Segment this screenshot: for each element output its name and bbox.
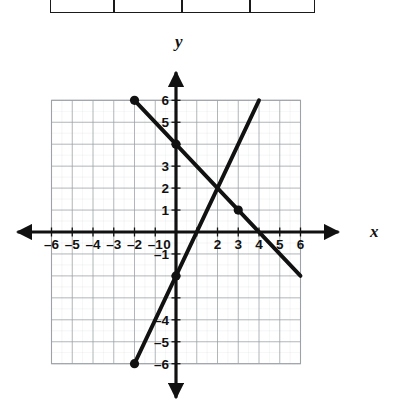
- x-tick-label: –4: [85, 237, 101, 252]
- y-tick-label: –5: [154, 335, 170, 350]
- x-tick-label: 4: [255, 237, 263, 252]
- y-tick-label: 3: [161, 159, 169, 174]
- x-tick-label: –5: [65, 237, 81, 252]
- x-tick-label: 6: [297, 237, 305, 252]
- plotted-point: [171, 140, 180, 149]
- x-tick-label: 3: [234, 237, 242, 252]
- x-tick-label: 2: [214, 237, 222, 252]
- x-tick-label: –3: [106, 237, 122, 252]
- y-tick-label: 6: [161, 93, 169, 108]
- y-tick-label: 2: [161, 181, 169, 196]
- coordinate-graph: –6–5–4–3–2–102345665321–1–4–5–6: [0, 0, 398, 413]
- figure-root: y x –6–5–4–3–2–102345665321–1–4–5–6: [0, 0, 398, 413]
- y-tick-label: 1: [161, 203, 169, 218]
- x-tick-label: –6: [44, 237, 60, 252]
- y-tick-label: –6: [154, 357, 170, 372]
- plotted-point: [130, 96, 139, 105]
- x-tick-label: –2: [127, 237, 142, 252]
- y-tick-label: –1: [154, 247, 170, 262]
- plotted-point: [130, 359, 139, 368]
- plotted-point: [234, 205, 243, 214]
- plotted-point: [171, 271, 180, 280]
